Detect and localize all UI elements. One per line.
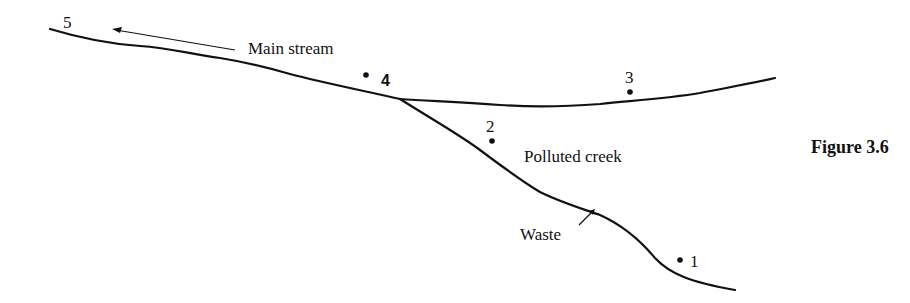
figure-caption: Figure 3.6 <box>811 137 889 158</box>
station-2-label: 2 <box>486 118 495 135</box>
flow-arrow-shaft <box>116 30 235 50</box>
station-5-label: 5 <box>63 14 72 31</box>
station-3-dot <box>627 89 633 95</box>
waste-arrow-shaft <box>579 212 592 225</box>
stream-diagram <box>0 0 910 303</box>
waste-label: Waste <box>520 226 561 243</box>
polluted-creek-line <box>400 99 735 290</box>
station-4-dot <box>363 72 369 78</box>
station-1-dot <box>677 257 683 263</box>
station-3-label: 3 <box>625 69 634 86</box>
polluted-creek-label: Polluted creek <box>524 148 622 165</box>
station-4-label: 4 <box>381 73 390 89</box>
flow-arrow-head-icon <box>112 27 122 33</box>
main-stream-label: Main stream <box>248 40 333 57</box>
station-2-dot <box>489 138 495 144</box>
figure-canvas: 5 4 3 2 1 Main stream Polluted creek Was… <box>0 0 910 303</box>
main-stream-line <box>50 29 775 106</box>
station-1-label: 1 <box>690 253 699 270</box>
